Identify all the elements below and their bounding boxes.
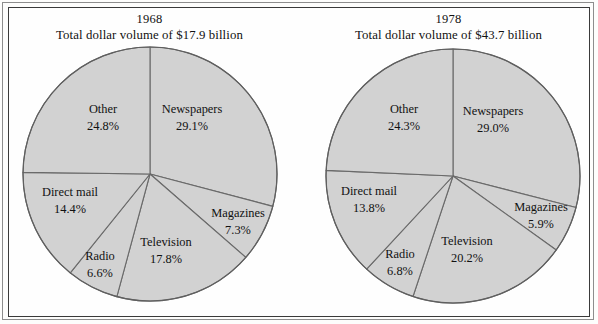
- pie-slices-1968: [23, 47, 277, 301]
- pie-slice: [326, 49, 453, 176]
- pie-slice: [23, 47, 150, 174]
- pie-slices-1978: [326, 49, 580, 303]
- chart-panel-1978: 1978 Total dollar volume of $43.7 billio…: [299, 0, 598, 324]
- pie-chart-1968: Newspapers29.1%Magazines7.3%Television17…: [0, 0, 299, 324]
- pie-chart-1978: Newspapers29.0%Magazines5.9%Television20…: [299, 0, 598, 324]
- advertising-volume-pie-figure: 1968 Total dollar volume of $17.9 billio…: [0, 0, 598, 324]
- pie-svg-1978: [299, 0, 598, 324]
- pie-svg-1968: [0, 0, 299, 324]
- chart-panel-1968: 1968 Total dollar volume of $17.9 billio…: [0, 0, 299, 324]
